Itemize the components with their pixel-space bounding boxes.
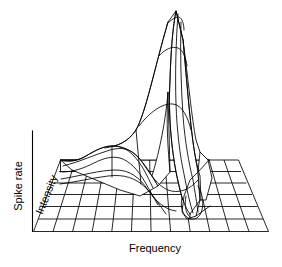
frequency-axis-label: Frequency (129, 242, 181, 254)
surface-plot-figure: Spike rate Frequency Intensity (0, 0, 282, 267)
baseline-grid (34, 160, 269, 232)
spike-rate-axis-label: Spike rate (12, 161, 24, 211)
surface-plot-canvas: Spike rate Frequency Intensity (0, 0, 282, 267)
